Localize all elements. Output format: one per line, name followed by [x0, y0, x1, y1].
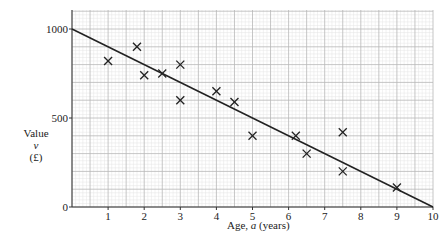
svg-text:4: 4 [214, 210, 220, 222]
svg-text:1: 1 [105, 210, 111, 222]
y-axis-variable: v [16, 139, 56, 151]
tick-labels: 1234567891005001000 [46, 23, 439, 222]
svg-text:3: 3 [178, 210, 184, 222]
y-axis-unit: (£) [16, 151, 56, 163]
x-axis-label: Age, a (years) [227, 219, 290, 231]
svg-text:500: 500 [52, 112, 69, 124]
x-axis-unit: (years) [256, 219, 289, 231]
y-axis-title: Value [16, 127, 56, 139]
x-axis-title: Age, [227, 219, 251, 231]
svg-text:10: 10 [428, 210, 440, 222]
grid-major [72, 10, 433, 207]
svg-text:7: 7 [322, 210, 328, 222]
scatter-chart: 1234567891005001000 [0, 0, 447, 235]
svg-text:0: 0 [63, 201, 69, 213]
svg-text:9: 9 [394, 210, 400, 222]
y-axis-label: Value v (£) [16, 127, 56, 163]
svg-text:1000: 1000 [46, 23, 69, 35]
svg-text:8: 8 [358, 210, 364, 222]
svg-text:2: 2 [141, 210, 147, 222]
